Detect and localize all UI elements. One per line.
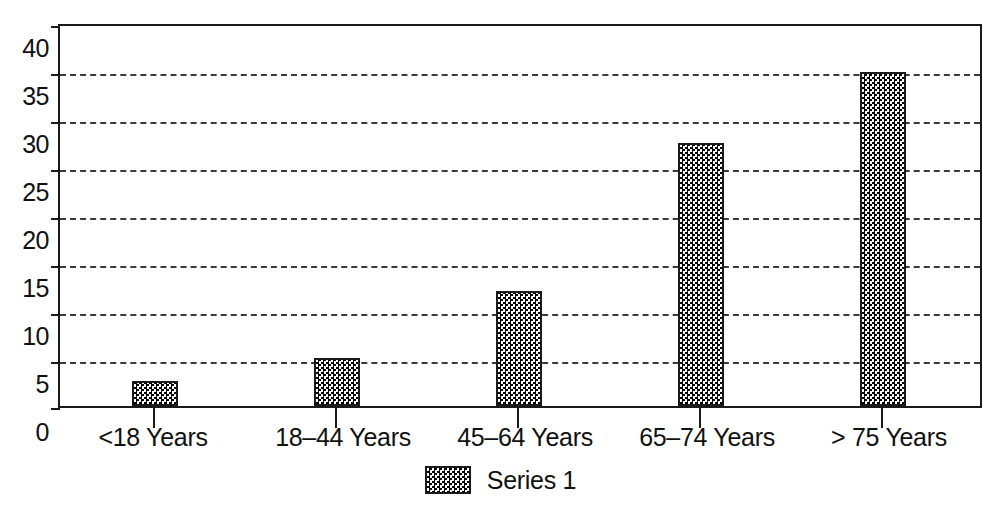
bar-series1-lt18 [132, 381, 178, 406]
caption-remnant [120, 503, 480, 511]
x-axis-label-lt18: <18 Years [98, 425, 207, 450]
y-axis-tick-label: 0 [1, 420, 49, 445]
y-axis-tick [51, 362, 60, 364]
gridline-20 [60, 218, 980, 220]
y-axis-tick-label: 15 [1, 276, 49, 301]
bar-series1-18-44 [314, 358, 360, 406]
legend-label-series1: Series 1 [487, 468, 576, 493]
legend-swatch-series1 [425, 466, 471, 494]
y-axis-labels: 40 35 30 25 20 15 10 5 0 [0, 24, 49, 408]
y-axis-tick [51, 314, 60, 316]
gridline-25 [60, 170, 980, 172]
y-axis-tick-label: 25 [1, 180, 49, 205]
y-axis-tick-label: 40 [1, 36, 49, 61]
bar-series1-gt75 [860, 72, 906, 406]
chart-legend: Series 1 [0, 466, 1001, 494]
y-axis-tick-label: 5 [1, 372, 49, 397]
y-axis-tick [51, 218, 60, 220]
y-axis-tick [51, 74, 60, 76]
y-axis-tick [51, 266, 60, 268]
bar-series1-45-64 [496, 291, 542, 406]
bar-series1-65-74 [678, 143, 724, 406]
y-axis-tick-label: 20 [1, 228, 49, 253]
y-axis-tick [51, 26, 60, 28]
bar-chart-figure: 40 35 30 25 20 15 10 5 0 [0, 0, 1001, 511]
y-axis-tick [51, 408, 60, 410]
y-axis-tick [51, 170, 60, 172]
gridline-15 [60, 266, 980, 268]
plot-area [58, 24, 982, 408]
y-axis-tick [51, 122, 60, 124]
x-axis-label-45-64: 45–64 Years [457, 425, 593, 450]
x-axis-label-gt75: > 75 Years [831, 425, 947, 450]
y-axis-tick-label: 30 [1, 132, 49, 157]
y-axis-tick-label: 35 [1, 84, 49, 109]
x-axis-label-18-44: 18–44 Years [275, 425, 411, 450]
x-axis-label-65-74: 65–74 Years [639, 425, 775, 450]
y-axis-tick-label: 10 [1, 324, 49, 349]
gridline-35 [60, 74, 980, 76]
gridline-30 [60, 122, 980, 124]
